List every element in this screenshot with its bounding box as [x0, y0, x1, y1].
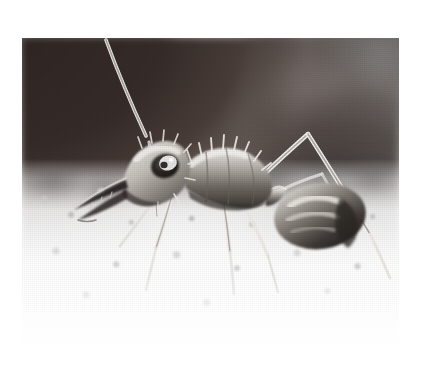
thorax: [182, 135, 272, 211]
middle-leg-rear: [238, 196, 278, 292]
mandibles: [74, 178, 128, 222]
ant-photograph: Black and white close-up photograph of a…: [22, 38, 399, 356]
page-root: Black and white close-up photograph of a…: [0, 0, 421, 389]
head: [122, 130, 198, 214]
ant-subject: [22, 38, 399, 356]
